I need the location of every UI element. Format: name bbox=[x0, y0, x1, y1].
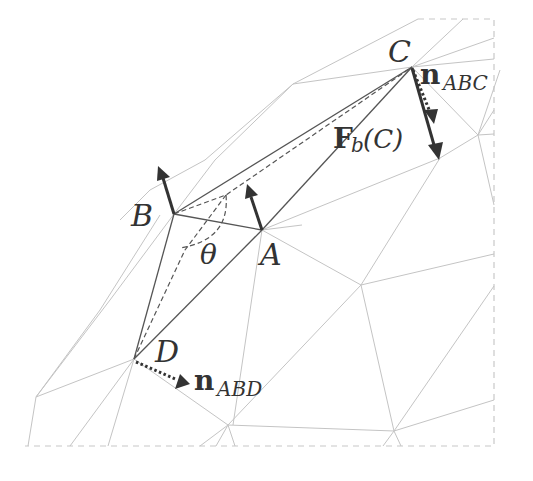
label-n-abc: n bbox=[420, 58, 440, 91]
label-b: B bbox=[130, 198, 153, 233]
label-force-sub: b bbox=[351, 133, 364, 157]
label-theta: θ bbox=[200, 238, 217, 271]
arrow-head-icon bbox=[157, 166, 170, 181]
mesh-diagram: C B A D θ n ABC n ABD F b (C) bbox=[0, 0, 533, 481]
label-force: F bbox=[333, 122, 353, 155]
arrow-head-icon bbox=[245, 184, 258, 199]
label-c: C bbox=[388, 34, 411, 69]
arrows bbox=[136, 68, 443, 389]
label-n-abd: n bbox=[194, 364, 214, 397]
labels: C B A D θ n ABC n ABD F b (C) bbox=[130, 34, 488, 401]
arrow-head-icon bbox=[175, 374, 190, 389]
label-force-arg: (C) bbox=[363, 124, 403, 154]
label-n-abc-sub: ABC bbox=[441, 71, 488, 95]
label-d: D bbox=[154, 334, 179, 369]
normal-at-a bbox=[251, 197, 262, 230]
edge-ad bbox=[134, 230, 262, 359]
normal-at-b bbox=[163, 178, 174, 214]
triangles bbox=[134, 67, 412, 359]
edge-ab bbox=[174, 214, 262, 230]
label-n-abd-sub: ABD bbox=[215, 377, 262, 401]
label-a: A bbox=[257, 237, 282, 272]
